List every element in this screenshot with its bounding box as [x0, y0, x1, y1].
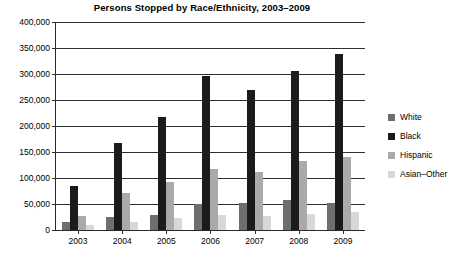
legend-item-black: Black [388, 131, 447, 141]
x-axis-tick-mark [255, 230, 256, 234]
x-axis-tick-mark [78, 230, 79, 234]
bar-hispanic-2004 [122, 193, 130, 230]
y-axis-tick-label: 50,000 [24, 199, 50, 209]
y-axis-tick-label: 350,000 [19, 43, 50, 53]
bar-white-2004 [106, 217, 114, 230]
bar-black-2009 [335, 54, 343, 230]
chart-container: Persons Stopped by Race/Ethnicity, 2003–… [0, 0, 470, 273]
legend-swatch-icon [388, 133, 395, 140]
bar-black-2007 [247, 90, 255, 230]
y-axis-tick-label: 200,000 [19, 121, 50, 131]
legend-label: Black [400, 131, 421, 141]
plot-area: 400,000350,000300,000250,000200,000150,0… [55, 22, 365, 231]
bar-group-2007: 2007 [233, 22, 277, 230]
bar-group-2008: 2008 [277, 22, 321, 230]
chart-title: Persons Stopped by Race/Ethnicity, 2003–… [0, 2, 404, 13]
bar-hispanic-2007 [255, 172, 263, 230]
bar-group-2003: 2003 [56, 22, 100, 230]
y-axis-tick-mark [52, 230, 56, 231]
x-axis-tick-label: 2007 [233, 236, 277, 246]
legend-swatch-icon [388, 171, 395, 178]
legend-label: White [400, 112, 422, 122]
legend-swatch-icon [388, 114, 395, 121]
x-axis-tick-label: 2005 [144, 236, 188, 246]
bar-asian-other-2004 [130, 222, 138, 230]
bar-hispanic-2006 [210, 169, 218, 230]
bar-group-2009: 2009 [321, 22, 365, 230]
x-axis-tick-mark [299, 230, 300, 234]
legend-swatch-icon [388, 152, 395, 159]
bar-white-2008 [283, 200, 291, 230]
bar-asian-other-2003 [86, 225, 94, 230]
y-axis-tick-label: 0 [45, 225, 50, 235]
x-axis-tick-label: 2003 [56, 236, 100, 246]
x-axis-tick-mark [166, 230, 167, 234]
x-axis-tick-label: 2008 [277, 236, 321, 246]
bar-black-2006 [202, 76, 210, 230]
bar-hispanic-2005 [166, 182, 174, 230]
y-axis-tick-label: 400,000 [19, 17, 50, 27]
bar-group-2004: 2004 [100, 22, 144, 230]
x-axis-tick-mark [210, 230, 211, 234]
bar-white-2003 [62, 222, 70, 230]
bar-black-2003 [70, 186, 78, 230]
bar-black-2004 [114, 143, 122, 230]
legend-item-hispanic: Hispanic [388, 150, 447, 160]
x-axis-tick-label: 2006 [188, 236, 232, 246]
bar-hispanic-2003 [78, 216, 86, 230]
x-axis-tick-label: 2009 [321, 236, 365, 246]
y-axis-tick-label: 100,000 [19, 173, 50, 183]
bar-groups: 2003200420052006200720082009 [56, 22, 365, 230]
y-axis-tick-label: 300,000 [19, 69, 50, 79]
legend-label: Asian–Other [400, 169, 447, 179]
legend-label: Hispanic [400, 150, 433, 160]
bar-white-2006 [194, 204, 202, 230]
y-axis-tick-label: 250,000 [19, 95, 50, 105]
bar-hispanic-2008 [299, 161, 307, 230]
bar-asian-other-2008 [307, 214, 315, 230]
y-axis-tick-label: 150,000 [19, 147, 50, 157]
legend-item-asian-other: Asian–Other [388, 169, 447, 179]
legend-item-white: White [388, 112, 447, 122]
bar-hispanic-2009 [343, 157, 351, 230]
bar-asian-other-2009 [351, 212, 359, 230]
bar-group-2006: 2006 [188, 22, 232, 230]
bar-black-2005 [158, 117, 166, 230]
bar-asian-other-2005 [174, 218, 182, 230]
bar-asian-other-2006 [218, 215, 226, 230]
bar-white-2009 [327, 203, 335, 230]
x-axis-tick-mark [122, 230, 123, 234]
x-axis-tick-label: 2004 [100, 236, 144, 246]
bar-group-2005: 2005 [144, 22, 188, 230]
chart-legend: WhiteBlackHispanicAsian–Other [388, 112, 447, 179]
bar-asian-other-2007 [263, 216, 271, 230]
x-axis-tick-mark [343, 230, 344, 234]
bar-white-2005 [150, 215, 158, 230]
bar-white-2007 [239, 203, 247, 230]
bar-black-2008 [291, 71, 299, 230]
